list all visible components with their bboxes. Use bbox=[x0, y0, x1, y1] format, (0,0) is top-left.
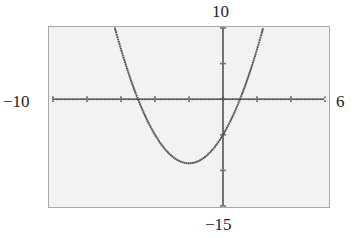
parabola-curve bbox=[114, 28, 264, 165]
ymax-label: 10 bbox=[212, 3, 229, 20]
graph-plot bbox=[0, 0, 352, 238]
axes bbox=[52, 27, 326, 207]
xmax-label: 6 bbox=[336, 93, 345, 110]
ymin-label: −15 bbox=[205, 216, 232, 233]
xmin-label: −10 bbox=[3, 93, 30, 110]
